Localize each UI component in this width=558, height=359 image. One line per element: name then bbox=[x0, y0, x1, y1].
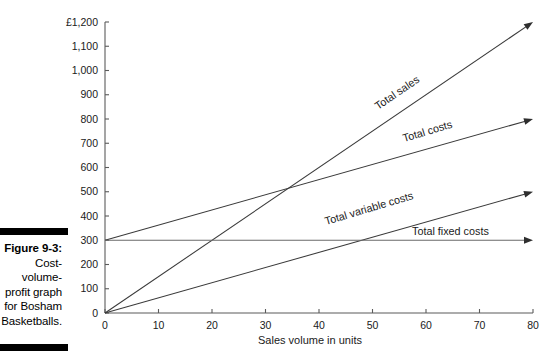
cost-volume-profit-chart: 01002003004005006007008009001,0001,100£1… bbox=[0, 0, 558, 359]
x-tick-label: 30 bbox=[260, 319, 272, 331]
y-tick-label: 900 bbox=[80, 88, 98, 100]
x-tick-label: 0 bbox=[102, 319, 108, 331]
arrow-head-total-fixed-costs bbox=[524, 237, 533, 244]
series-label-total-costs: Total costs bbox=[401, 118, 454, 144]
y-tick-label: 1,100 bbox=[72, 40, 98, 52]
chart-series bbox=[105, 22, 533, 313]
y-tick-label: 500 bbox=[80, 185, 98, 197]
series-line-total-costs bbox=[105, 121, 527, 241]
x-tick-label: 80 bbox=[527, 319, 539, 331]
series-line-total-sales bbox=[105, 25, 528, 313]
y-tick-label: 400 bbox=[80, 210, 98, 222]
arrow-head-total-variable-costs bbox=[523, 191, 533, 198]
y-tick-label: £1,200 bbox=[66, 16, 98, 28]
x-tick-label: 70 bbox=[474, 319, 486, 331]
series-line-total-variable-costs bbox=[105, 193, 527, 313]
y-tick-label: 100 bbox=[80, 282, 98, 294]
y-tick-label: 200 bbox=[80, 258, 98, 270]
x-axis-ticks: 01020304050607080 bbox=[102, 309, 539, 331]
figure-root: Figure 9-3: Cost- volume- profit graph f… bbox=[0, 0, 558, 359]
series-label-total-sales: Total sales bbox=[372, 73, 421, 112]
y-tick-label: 600 bbox=[80, 161, 98, 173]
arrow-head-total-costs bbox=[523, 118, 533, 125]
x-tick-label: 50 bbox=[367, 319, 379, 331]
y-tick-label: 800 bbox=[80, 113, 98, 125]
y-tick-label: 700 bbox=[80, 137, 98, 149]
series-label-total-variable-costs: Total variable costs bbox=[323, 189, 415, 227]
x-tick-label: 40 bbox=[313, 319, 325, 331]
x-tick-label: 20 bbox=[206, 319, 218, 331]
y-axis-ticks: 01002003004005006007008009001,0001,100£1… bbox=[66, 16, 109, 319]
series-label-total-fixed-costs: Total fixed costs bbox=[412, 225, 489, 237]
y-tick-label: 300 bbox=[80, 234, 98, 246]
x-tick-label: 60 bbox=[420, 319, 432, 331]
arrow-head-total-sales bbox=[524, 22, 533, 30]
y-tick-label: 1,000 bbox=[72, 64, 98, 76]
x-tick-label: 10 bbox=[153, 319, 165, 331]
x-axis-title: Sales volume in units bbox=[258, 334, 362, 346]
y-tick-label: 0 bbox=[92, 307, 98, 319]
